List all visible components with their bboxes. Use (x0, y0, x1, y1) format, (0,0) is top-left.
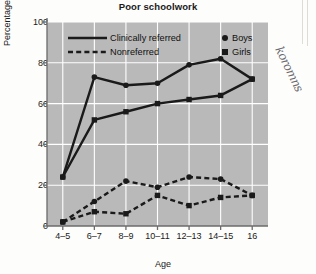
data-point-circle (155, 80, 161, 86)
data-point-circle (155, 184, 161, 190)
data-point-circle (92, 74, 98, 80)
data-point-circle (186, 62, 192, 68)
data-point-square (60, 174, 65, 179)
data-point-square (186, 203, 191, 208)
data-point-square (155, 193, 160, 198)
data-point-square (155, 101, 160, 106)
data-point-square (92, 117, 97, 122)
data-point-square (218, 93, 223, 98)
data-point-square (92, 209, 97, 214)
legend-label-boys: Boys (232, 33, 252, 43)
data-point-square (218, 195, 223, 200)
data-point-circle (218, 176, 224, 182)
data-point-square (60, 219, 65, 224)
legend-label-nonreferred: Nonreferred (110, 47, 159, 57)
page-edge-right-inner (302, 0, 303, 44)
data-point-square (123, 109, 128, 114)
legend-label-clinically-referred: Clinically referred (110, 33, 181, 43)
data-point-square (186, 97, 191, 102)
data-point-circle (123, 82, 129, 88)
legend-label-girls: Girls (232, 47, 251, 57)
data-point-circle (92, 199, 98, 205)
data-point-square (123, 211, 128, 216)
legend-marker-square (222, 49, 228, 55)
chart-figure: Poor schoolwork Percentage Age 020406080… (0, 0, 316, 274)
data-point-square (250, 193, 255, 198)
data-point-square (250, 76, 255, 81)
page-edge-right (307, 0, 308, 46)
data-point-circle (123, 178, 129, 184)
data-point-circle (186, 174, 192, 180)
data-point-circle (218, 56, 224, 62)
legend-marker-circle (222, 35, 228, 41)
